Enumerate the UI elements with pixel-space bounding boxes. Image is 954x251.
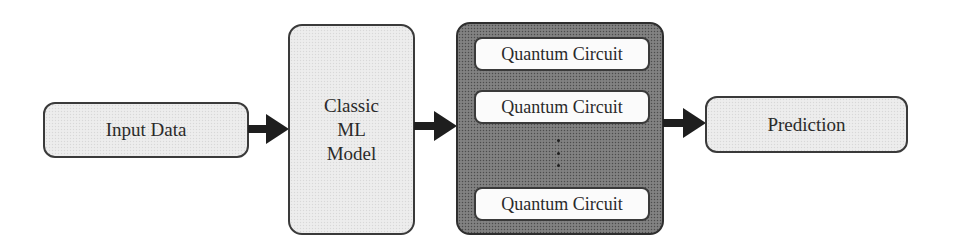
- prediction-node: Prediction: [705, 96, 908, 153]
- arrow-right-icon: [248, 114, 289, 144]
- arrow-classic-to-quantum: [414, 111, 457, 141]
- classic-label-line-1: Classic: [324, 94, 379, 118]
- arrow-quantum-to-prediction: [663, 108, 706, 138]
- quantum-circuit-node: Quantum Circuit: [474, 187, 650, 221]
- quantum-circuit-label: Quantum Circuit: [501, 95, 622, 119]
- classic-ml-model-node: Classic ML Model: [288, 24, 415, 235]
- arrow-right-icon: [414, 111, 457, 141]
- classic-ml-model-label: Classic ML Model: [324, 94, 379, 166]
- input-data-label: Input Data: [106, 118, 187, 142]
- classic-label-line-2: ML: [337, 118, 366, 142]
- quantum-circuit-node: Quantum Circuit: [474, 90, 650, 124]
- quantum-circuits-group: Quantum Circuit Quantum Circuit Quantum …: [456, 22, 664, 235]
- classic-label-line-3: Model: [327, 142, 377, 166]
- arrow-right-icon: [663, 108, 706, 138]
- quantum-circuit-node: Quantum Circuit: [474, 37, 650, 71]
- input-data-node: Input Data: [43, 102, 249, 158]
- quantum-circuit-label: Quantum Circuit: [501, 192, 622, 216]
- prediction-label: Prediction: [767, 113, 845, 137]
- quantum-circuit-label: Quantum Circuit: [501, 42, 622, 66]
- arrow-input-to-classic: [248, 114, 289, 144]
- vertical-ellipsis-icon: [554, 139, 562, 167]
